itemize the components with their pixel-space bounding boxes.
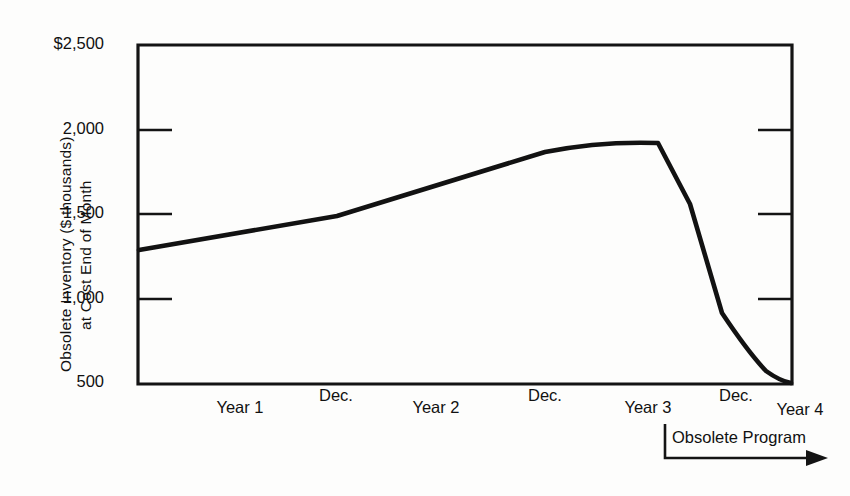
chart-figure: Obsolete Inventory ($ thousands) at Cost… bbox=[0, 0, 850, 496]
data-series-obsolete-inventory bbox=[139, 143, 791, 383]
plot-canvas bbox=[0, 0, 850, 496]
obsolete-program-arrow bbox=[665, 424, 828, 466]
